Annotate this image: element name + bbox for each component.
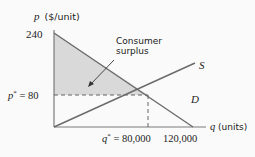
x-axis-label: q (units) xyxy=(210,121,247,132)
y-tick-p-star: p* = 80 xyxy=(7,89,38,101)
x-tick-120000: 120,000 xyxy=(163,133,197,144)
callout-consumer: Consumer xyxy=(116,36,162,46)
demand-label: D xyxy=(190,93,199,105)
supply-label: S xyxy=(199,59,205,71)
y-axis-label: p ($/unit) xyxy=(33,10,80,22)
x-tick-q-star: q* = 80,000 xyxy=(102,132,151,144)
supply-demand-chart: p ($/unit) 240 p* = 80 q* = 80,000 120,0… xyxy=(0,0,255,157)
callout-surplus: surplus xyxy=(116,46,149,56)
y-tick-240: 240 xyxy=(26,28,43,40)
